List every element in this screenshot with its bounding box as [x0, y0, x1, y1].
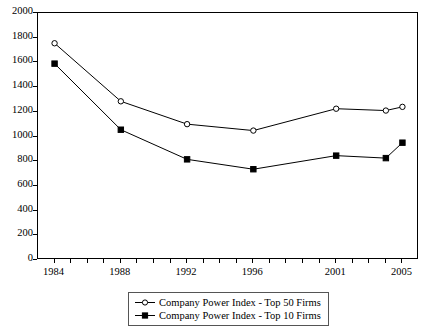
x-axis-tick-label: 2005 — [391, 266, 412, 277]
y-axis-tick-mark — [33, 37, 37, 38]
open-circle-marker-icon — [333, 106, 338, 111]
y-axis-tick-label: 0 — [28, 253, 33, 263]
filled-square-marker-icon — [134, 310, 156, 321]
y-axis-tick-label: 600 — [17, 179, 33, 189]
chart-legend: Company Power Index - Top 50 Firms Compa… — [128, 292, 329, 326]
y-axis-tick-label: 2000 — [12, 6, 33, 16]
open-circle-marker-icon — [52, 41, 57, 46]
x-axis-tick-label: 2001 — [325, 266, 346, 277]
y-axis-tick-mark — [33, 111, 37, 112]
y-axis-tick-mark — [33, 160, 37, 161]
y-axis-tick-mark — [33, 185, 37, 186]
filled-square-marker-icon — [118, 127, 123, 132]
open-circle-marker-icon — [383, 108, 388, 113]
legend-item-label: Company Power Index - Top 10 Firms — [159, 310, 321, 321]
open-circle-marker-icon — [134, 297, 156, 308]
chart-figure: 0200400600800100012001400160018002000 19… — [0, 0, 436, 326]
open-circle-marker-icon — [118, 99, 123, 104]
y-axis-tick-label: 800 — [17, 154, 33, 164]
y-axis-tick-label: 1000 — [12, 130, 33, 140]
y-axis-tick-label: 1200 — [12, 105, 33, 115]
filled-square-marker-icon — [383, 155, 388, 160]
filled-square-marker-icon — [251, 167, 256, 172]
series-plot — [38, 13, 419, 260]
open-circle-marker-icon — [184, 121, 189, 126]
y-axis-tick-mark — [33, 234, 37, 235]
legend-item-label: Company Power Index - Top 50 Firms — [159, 297, 321, 308]
filled-square-marker-icon — [333, 153, 338, 158]
filled-square-marker-icon — [400, 140, 405, 145]
plot-area — [37, 12, 418, 259]
y-axis-tick-label: 1600 — [12, 55, 33, 65]
y-axis-tick-mark — [33, 61, 37, 62]
series-line — [55, 64, 403, 170]
filled-square-marker-icon — [184, 157, 189, 162]
y-axis: 0200400600800100012001400160018002000 — [0, 0, 33, 326]
y-axis-tick-mark — [33, 136, 37, 137]
y-axis-tick-label: 200 — [17, 228, 33, 238]
open-circle-marker-icon — [251, 128, 256, 133]
x-axis-tick-label: 1988 — [109, 266, 130, 277]
x-axis-tick-label: 1992 — [176, 266, 197, 277]
legend-item[interactable]: Company Power Index - Top 50 Firms — [134, 296, 321, 309]
x-axis-tick-label: 1996 — [242, 266, 263, 277]
y-axis-tick-mark — [33, 12, 37, 13]
x-axis-tick-label: 1984 — [43, 266, 64, 277]
open-circle-marker-icon — [400, 104, 405, 109]
y-axis-tick-label: 1400 — [12, 80, 33, 90]
y-axis-tick-mark — [33, 86, 37, 87]
y-axis-tick-label: 1800 — [12, 31, 33, 41]
y-axis-tick-label: 400 — [17, 204, 33, 214]
series-line — [55, 43, 403, 130]
legend-item[interactable]: Company Power Index - Top 10 Firms — [134, 309, 321, 322]
filled-square-marker-icon — [52, 61, 57, 66]
y-axis-tick-mark — [33, 259, 37, 260]
y-axis-tick-mark — [33, 210, 37, 211]
